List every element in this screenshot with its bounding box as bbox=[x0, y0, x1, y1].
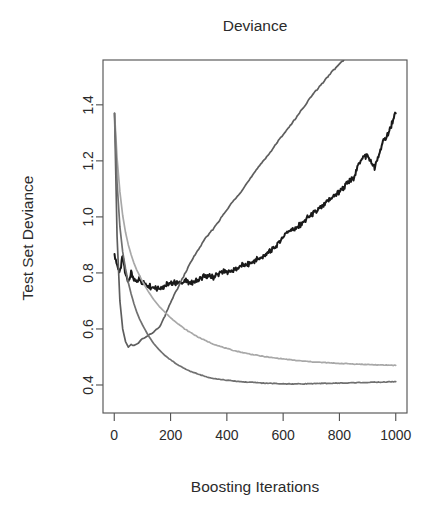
x-tick-label: 400 bbox=[215, 427, 239, 443]
deviance-chart-figure: Deviance Test Set Deviance Boosting Iter… bbox=[0, 0, 435, 508]
y-axis-label: Test Set Deviance bbox=[19, 176, 36, 301]
x-tick-label: 1000 bbox=[380, 427, 411, 443]
chart-canvas: Deviance Test Set Deviance Boosting Iter… bbox=[0, 0, 435, 508]
chart-title: Deviance bbox=[223, 17, 288, 34]
x-tick-label: 0 bbox=[110, 427, 118, 443]
x-tick-label: 200 bbox=[159, 427, 183, 443]
y-tick-label: 0.4 bbox=[80, 375, 96, 395]
x-tick-label: 600 bbox=[271, 427, 295, 443]
y-tick-label: 1.2 bbox=[80, 151, 96, 171]
y-tick-label: 1.0 bbox=[80, 207, 96, 227]
y-tick-label: 0.6 bbox=[80, 319, 96, 339]
y-tick-label: 0.8 bbox=[80, 263, 96, 283]
y-tick-label: 1.4 bbox=[80, 95, 96, 115]
x-tick-label: 800 bbox=[328, 427, 352, 443]
x-axis-label: Boosting Iterations bbox=[191, 478, 320, 495]
